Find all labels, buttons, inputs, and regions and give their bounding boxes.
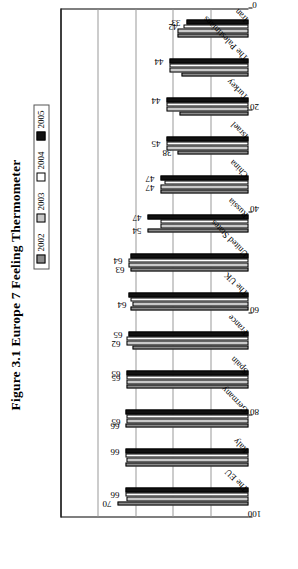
- bar-2003: [126, 497, 248, 502]
- bar-group: 7066: [61, 477, 248, 516]
- black-square-icon: [36, 131, 45, 140]
- data-label: 47: [145, 173, 154, 182]
- bar-group: 4233: [61, 9, 248, 48]
- bar-2005: 65: [126, 371, 248, 376]
- chart-legend: 2002200320042005: [33, 104, 49, 269]
- legend-label: 2003: [36, 192, 45, 210]
- bar-2002: [181, 72, 248, 77]
- bar-2002: [177, 33, 248, 38]
- bar-group: 6665: [61, 399, 248, 438]
- data-label: 33: [171, 17, 180, 26]
- figure-rotation-wrapper: Figure 3.1 Europe 7 Feeling Thermometer …: [0, 0, 298, 569]
- plot-area: 7066666665656562656463645447474738454444…: [60, 8, 248, 517]
- legend-item-2002: 2002: [36, 233, 45, 263]
- light-gray-square-icon: [36, 213, 45, 222]
- legend-label: 2005: [36, 110, 45, 128]
- bar-group: 6364: [61, 243, 248, 282]
- data-label: 45: [151, 139, 160, 148]
- bar-2003: 65: [126, 419, 248, 424]
- bar-2005: 33: [186, 20, 248, 25]
- bar-2002: 63: [130, 267, 248, 272]
- dark-gray-square-icon: [36, 254, 45, 263]
- bar-2005: 65: [128, 332, 248, 337]
- bar-2003: [177, 29, 248, 34]
- bar-groups: 7066666665656562656463645447474738454444…: [61, 9, 248, 516]
- bar-2005: 44: [169, 59, 248, 64]
- bar-2005: [128, 293, 248, 298]
- bar-2004: [126, 336, 248, 341]
- value-tick-label: 60: [250, 304, 259, 313]
- bar-2004: [160, 219, 248, 224]
- data-label: 54: [132, 226, 141, 235]
- legend-item-2003: 2003: [36, 192, 45, 222]
- bar-2003: [169, 68, 248, 73]
- value-tick-label: 100: [247, 508, 261, 517]
- data-label: 66: [110, 490, 119, 499]
- data-label: 65: [111, 368, 120, 377]
- bar-2005: 47: [147, 215, 248, 220]
- page-title: Figure 3.1 Europe 7 Feeling Thermometer: [0, 0, 23, 569]
- bar-2004: 64: [128, 258, 248, 263]
- data-label: 70: [102, 499, 111, 508]
- value-axis: 020406080100: [248, 8, 290, 517]
- bar-2003: [166, 146, 248, 151]
- bar-2003: [166, 107, 248, 112]
- value-tick: [248, 109, 252, 110]
- bar-2004: 42: [183, 24, 248, 29]
- bar-group: 64: [61, 282, 248, 321]
- bar-2003: [128, 263, 248, 268]
- bar-2004: [126, 414, 248, 419]
- bar-group: 3845: [61, 126, 248, 165]
- bar-2002: [126, 384, 248, 389]
- bar-2003: 64: [132, 302, 248, 307]
- data-label: 65: [113, 329, 122, 338]
- bar-2002: 54: [147, 228, 248, 233]
- bar-2003: [126, 458, 248, 463]
- bar-2002: [179, 111, 248, 116]
- data-label: 64: [117, 299, 126, 308]
- bar-2003: 62: [126, 341, 248, 346]
- bar-2002: [130, 306, 248, 311]
- data-label: 47: [132, 212, 141, 221]
- plot-area-wrapper: 7066666665656562656463645447474738454444…: [60, 8, 290, 517]
- bar-group: 5447: [61, 204, 248, 243]
- bar-group: 4747: [61, 165, 248, 204]
- legend-label: 2002: [36, 233, 45, 251]
- bar-group: 66: [61, 438, 248, 477]
- bar-2004: [169, 63, 248, 68]
- figure: Figure 3.1 Europe 7 Feeling Thermometer …: [0, 0, 298, 569]
- bar-2003: [126, 380, 248, 385]
- bar-2005: [130, 254, 248, 259]
- bar-2004: 45: [166, 141, 248, 146]
- data-label: 66: [110, 446, 119, 455]
- bar-group: 6265: [61, 321, 248, 360]
- bar-2005: 66: [125, 449, 248, 454]
- bar-2005: [125, 410, 248, 415]
- value-tick: [248, 211, 252, 212]
- bar-2004: 66: [125, 492, 248, 497]
- legend-label: 2004: [36, 151, 45, 169]
- bar-2004: 65: [126, 375, 248, 380]
- bar-2002: [160, 189, 248, 194]
- white-square-icon: [36, 172, 45, 181]
- bar-group: 6565: [61, 360, 248, 399]
- data-label: 44: [154, 56, 163, 65]
- value-tick-label: 80: [250, 406, 259, 415]
- bar-group: 44: [61, 87, 248, 126]
- data-label: 44: [151, 95, 160, 104]
- legend-item-2004: 2004: [36, 151, 45, 181]
- bar-2004: [166, 102, 248, 107]
- bar-2002: [132, 345, 248, 350]
- legend-item-2005: 2005: [36, 110, 45, 140]
- bar-2005: [166, 137, 248, 142]
- bar-2005: 44: [166, 98, 248, 103]
- bar-2002: [125, 462, 248, 467]
- data-label: 64: [113, 256, 122, 265]
- bar-2004: [130, 297, 248, 302]
- bar-2002: 38: [177, 150, 248, 155]
- bar-2005: 47: [160, 176, 248, 181]
- bar-2002: 66: [125, 423, 248, 428]
- data-label: 63: [115, 265, 124, 274]
- bar-2003: 47: [160, 185, 248, 190]
- bar-2005: [125, 488, 248, 493]
